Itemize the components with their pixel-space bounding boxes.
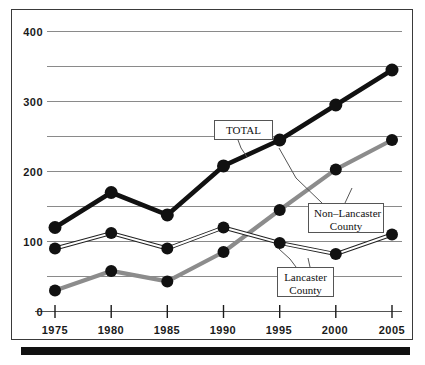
data-point: [49, 243, 61, 255]
callout-lancaster-county-label: Lancaster County: [277, 267, 334, 297]
callout-total-text: TOTAL: [226, 124, 261, 136]
leader-line-lancaster-b: [308, 258, 310, 267]
data-point: [273, 134, 286, 147]
data-point: [217, 159, 230, 172]
data-point: [161, 275, 173, 287]
x-tick-label-2005: 2005: [369, 324, 415, 336]
data-point: [161, 243, 173, 255]
callout-non-lancaster-line1: Non–Lancaster: [314, 207, 381, 219]
leader-line-non-lancaster-b: [345, 188, 352, 203]
data-point: [49, 285, 61, 297]
data-point: [330, 248, 342, 260]
y-tick-label-300: 300: [9, 96, 43, 108]
data-point: [274, 237, 286, 249]
data-point: [218, 246, 230, 258]
leader-line-total: [238, 140, 247, 157]
data-point: [386, 229, 398, 241]
callout-non-lancaster-line2: County: [330, 220, 362, 232]
x-tick-label-1985: 1985: [144, 324, 190, 336]
data-point: [330, 163, 342, 175]
callout-lancaster-line1: Lancaster: [284, 271, 327, 283]
data-point: [218, 222, 230, 234]
x-tick-label-1995: 1995: [256, 324, 302, 336]
x-tick-label-1975: 1975: [32, 324, 78, 336]
chart-page: 400 300 200 100 0 1975 1980 1985 1990 19…: [0, 0, 425, 365]
callout-non-lancaster-county-label: Non–Lancaster County: [308, 203, 384, 233]
data-point: [161, 208, 174, 221]
data-point: [105, 186, 118, 199]
callout-total-label: TOTAL: [214, 120, 273, 140]
data-point: [386, 134, 398, 146]
x-tick-label-2000: 2000: [312, 324, 358, 336]
data-point: [105, 227, 117, 239]
gridlines: [47, 32, 402, 277]
data-point: [386, 64, 399, 77]
x-tick-label-1990: 1990: [200, 324, 246, 336]
line-chart-plot: [0, 0, 425, 365]
callout-lancaster-line2: County: [289, 284, 321, 296]
y-tick-label-200: 200: [9, 166, 43, 178]
y-tick-label-0: 0: [9, 306, 43, 318]
y-tick-label-400: 400: [9, 26, 43, 38]
leader-line-lancaster: [279, 249, 296, 267]
data-point: [274, 204, 286, 216]
data-point: [49, 221, 62, 234]
y-tick-label-100: 100: [9, 236, 43, 248]
x-tick-label-1980: 1980: [88, 324, 134, 336]
data-point: [329, 99, 342, 112]
data-point: [105, 265, 117, 277]
